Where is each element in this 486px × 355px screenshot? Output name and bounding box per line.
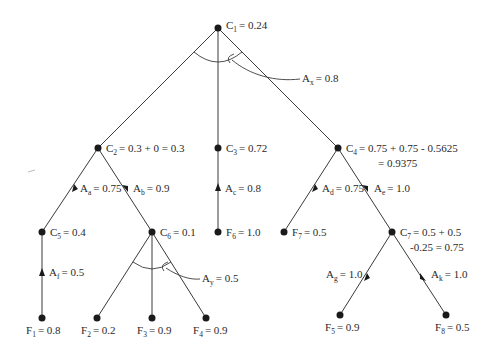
- nodes: [39, 25, 450, 322]
- node-c6: [149, 229, 156, 236]
- node-f2: [94, 315, 101, 322]
- label-aa: Aa= 0.75: [80, 182, 122, 197]
- node-f8: [443, 312, 450, 319]
- label-f3: F3= 0.9: [137, 324, 172, 339]
- edges: [42, 28, 446, 318]
- node-c2: [95, 145, 102, 152]
- label-f7: F5= 0.9: [325, 321, 360, 336]
- label-f4: F4= 0.9: [193, 324, 228, 339]
- and-arcs: [133, 52, 300, 279]
- label-ax: Ax= 0.8: [302, 72, 339, 87]
- node-f1: [39, 315, 46, 322]
- label-ab: Ab= 0.9: [133, 182, 170, 197]
- label-c5: C5= 0.4: [50, 226, 86, 241]
- label-ag: Ag= 1.0: [326, 268, 363, 283]
- edge-c6-f2: [97, 232, 152, 318]
- label-c4-line2: = 0.9375: [378, 157, 418, 169]
- inference-tree-diagram: C1= 0.24 C2= 0.3 + 0 = 0.3 C3= 0.72 C4= …: [0, 0, 486, 355]
- node-c3: [215, 145, 222, 152]
- label-ay: Ay= 0.5: [202, 272, 239, 287]
- rule-labels: Ax= 0.8 Aa= 0.75 Ab= 0.9 Ac= 0.8 Ad= 0.7…: [49, 72, 468, 287]
- label-f8: F8= 0.5: [435, 321, 470, 336]
- label-f5: F6= 1.0: [226, 226, 261, 241]
- arrow-ak-icon: [420, 273, 426, 281]
- label-c7-line2: -0.25 = 0.75: [410, 241, 464, 253]
- arrow-ag-icon: [364, 273, 370, 281]
- label-f6: F7= 0.5: [292, 226, 327, 241]
- label-ac: Ac= 0.8: [225, 182, 262, 197]
- ay-leader-line: [166, 268, 200, 279]
- label-c6: C6= 0.1: [160, 226, 196, 241]
- label-ak: Ak= 1.0: [431, 268, 468, 283]
- node-f5: [215, 229, 222, 236]
- arrow-ad-icon: [312, 184, 318, 192]
- node-f6: [281, 229, 288, 236]
- edge-c1-c2: [98, 28, 218, 148]
- arrow-af-icon: [39, 268, 45, 276]
- label-f2: F2= 0.2: [81, 324, 116, 339]
- label-ae: Ae= 1.0: [374, 182, 411, 197]
- node-c7: [389, 229, 396, 236]
- node-c1: [215, 25, 222, 32]
- label-c1: C1= 0.24: [226, 19, 268, 34]
- node-f7: [337, 312, 344, 319]
- label-c7: C7= 0.5 + 0.5: [400, 226, 462, 241]
- ax-leader-line: [232, 60, 300, 80]
- edge-c1-c4: [218, 28, 338, 148]
- arrow-ac-icon: [215, 183, 221, 191]
- label-af: Af= 0.5: [49, 266, 85, 281]
- node-f4: [203, 315, 210, 322]
- label-c2: C2= 0.3 + 0 = 0.3: [106, 142, 185, 157]
- stray-mark: [28, 170, 35, 172]
- node-c4: [335, 145, 342, 152]
- label-f1: F1= 0.8: [26, 324, 61, 339]
- label-c3: C3= 0.72: [226, 142, 267, 157]
- label-ad: Ad= 0.75: [322, 182, 364, 197]
- label-c4: C4= 0.75 + 0.75 - 0.5625: [346, 142, 458, 157]
- node-c5: [39, 229, 46, 236]
- node-labels: C1= 0.24 C2= 0.3 + 0 = 0.3 C3= 0.72 C4= …: [26, 19, 470, 339]
- node-f3: [149, 315, 156, 322]
